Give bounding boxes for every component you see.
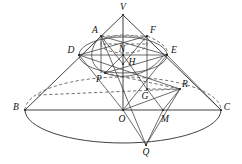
label-V: V bbox=[120, 2, 127, 12]
point-C bbox=[220, 109, 222, 111]
label-M: M bbox=[160, 114, 170, 124]
label-B: B bbox=[13, 102, 19, 112]
point-E bbox=[166, 54, 168, 56]
point-F bbox=[146, 35, 148, 37]
point-M bbox=[162, 109, 164, 111]
geometry-svg-canvas: V A F D E N H P R G B C O M Q bbox=[0, 0, 242, 164]
label-D: D bbox=[67, 45, 75, 55]
edge-V-B bbox=[25, 15, 123, 110]
label-F: F bbox=[149, 25, 156, 35]
point-A bbox=[100, 35, 102, 37]
label-R: R bbox=[181, 79, 188, 89]
edge-G-M bbox=[147, 89, 163, 110]
edge-E-C-extension bbox=[167, 55, 221, 110]
edge-D-F bbox=[79, 36, 147, 55]
point-B bbox=[24, 109, 26, 111]
label-N: N bbox=[118, 44, 126, 54]
label-P: P bbox=[95, 74, 102, 84]
edge-V-C bbox=[123, 15, 221, 110]
point-P bbox=[104, 72, 106, 74]
point-V bbox=[122, 14, 124, 16]
label-E: E bbox=[170, 45, 177, 55]
label-O: O bbox=[119, 114, 126, 124]
point-N bbox=[122, 54, 124, 56]
point-R bbox=[179, 88, 181, 90]
label-A: A bbox=[91, 25, 98, 35]
label-H: H bbox=[128, 57, 137, 67]
geometry-figure: V A F D E N H P R G B C O M Q bbox=[0, 0, 242, 164]
label-C: C bbox=[224, 102, 231, 112]
edge-Q-O bbox=[123, 110, 146, 145]
edge-P-R-dashed bbox=[105, 73, 180, 89]
label-Q: Q bbox=[143, 147, 150, 157]
label-G: G bbox=[142, 91, 149, 101]
point-H bbox=[122, 63, 124, 65]
point-Q bbox=[145, 144, 147, 146]
point-O bbox=[122, 109, 124, 111]
point-D bbox=[78, 54, 80, 56]
point-G bbox=[146, 88, 148, 90]
